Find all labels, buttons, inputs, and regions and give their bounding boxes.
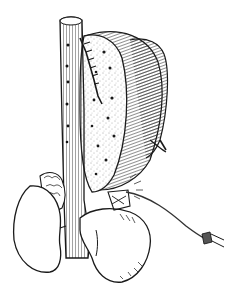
anatomical-illustration [0, 0, 228, 295]
right-mass [80, 209, 150, 283]
illustration-canvas [0, 0, 228, 295]
left-organ [14, 173, 66, 273]
